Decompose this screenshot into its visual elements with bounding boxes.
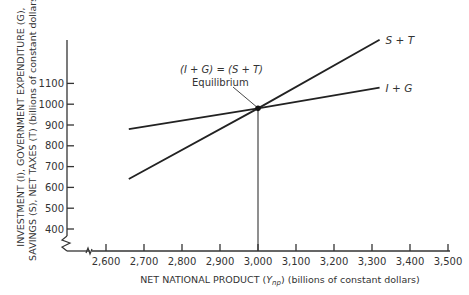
- y-tick-label: 600: [45, 182, 64, 193]
- x-axis-label: NET NATIONAL PRODUCT (Ynp) (billions of …: [140, 274, 420, 287]
- x-tick-label: 3,000: [244, 256, 273, 267]
- series-line-i-plus-g: [129, 88, 380, 130]
- equilibrium-point: [255, 106, 261, 112]
- x-tick-label: 2,700: [130, 256, 159, 267]
- y-tick-label: 1100: [39, 78, 64, 89]
- y-axis-label-line1: INVESTMENT (I), GOVERNMENT EXPENDITURE (…: [15, 7, 26, 246]
- x-axis-break-icon: [86, 248, 92, 254]
- x-tick-label: 2,900: [206, 256, 235, 267]
- x-tick-label: 2,600: [92, 256, 121, 267]
- y-tick-label: 800: [45, 140, 64, 151]
- y-axis-label-line2: SAVINGS (S), NET TAXES (T) (billions of …: [27, 0, 38, 261]
- equilibrium-label: Equilibrium: [192, 77, 249, 88]
- x-tick-label: 3,500: [434, 256, 463, 267]
- x-tick-label: 2,800: [168, 256, 197, 267]
- y-tick-label: 900: [45, 120, 64, 131]
- y-axis-break-icon: [62, 236, 70, 251]
- y-tick-label: 1000: [39, 99, 64, 110]
- x-tick-label: 3,100: [282, 256, 311, 267]
- y-tick-label: 400: [45, 224, 64, 235]
- y-tick-label: 500: [45, 203, 64, 214]
- x-axis-ticks: 2,6002,7002,8002,9003,0003,1003,2003,300…: [92, 244, 463, 267]
- equilibrium-equation: (I + G) = (S + T): [180, 64, 263, 75]
- x-tick-label: 3,300: [358, 256, 387, 267]
- y-tick-label: 700: [45, 161, 64, 172]
- x-tick-label: 3,400: [396, 256, 425, 267]
- y-axis-ticks: 40050060070080090010001100: [39, 78, 74, 235]
- equilibrium-leader-line: [233, 87, 256, 106]
- x-tick-label: 3,200: [320, 256, 349, 267]
- series-label-s-plus-t: S + T: [386, 34, 416, 46]
- equilibrium-chart: INVESTMENT (I), GOVERNMENT EXPENDITURE (…: [0, 0, 469, 295]
- series-label-i-plus-g: I + G: [386, 82, 413, 94]
